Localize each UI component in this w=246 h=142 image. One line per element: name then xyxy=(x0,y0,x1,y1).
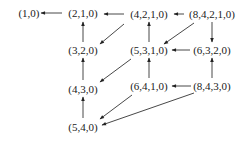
node-label: (5,3,1,0) xyxy=(130,44,168,57)
edge-arrow xyxy=(100,24,124,44)
node-label: (5,4,0) xyxy=(68,121,98,134)
node-label: (4,3,0) xyxy=(68,83,98,96)
node-label: (2,1,0) xyxy=(68,7,98,20)
nodes-group: (1,0)(2,1,0)(4,2,1,0)(8,4,2,1,0)(3,2,0)(… xyxy=(18,7,235,134)
node-label: (3,2,0) xyxy=(68,44,98,57)
edges-group xyxy=(41,13,212,125)
node-label: (8,4,2,1,0) xyxy=(189,8,235,21)
edge-arrow xyxy=(164,23,194,44)
node-label: (6,3,2,0) xyxy=(193,44,231,57)
hasse-diagram: (1,0)(2,1,0)(4,2,1,0)(8,4,2,1,0)(3,2,0)(… xyxy=(0,0,246,142)
node-label: (1,0) xyxy=(18,7,39,20)
edge-arrow xyxy=(100,95,132,119)
edge-arrow xyxy=(100,59,131,82)
edge-arrow xyxy=(102,93,194,125)
node-label: (4,2,1,0) xyxy=(130,8,168,21)
node-label: (6,4,1,0) xyxy=(130,80,168,93)
node-label: (8,4,3,0) xyxy=(193,80,231,93)
